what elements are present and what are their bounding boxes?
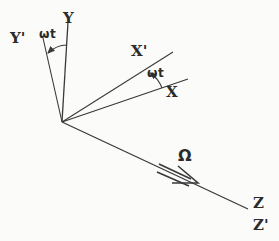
axis-label-y: Y <box>63 11 74 26</box>
omega-vector-arrow <box>157 164 198 186</box>
axis-line-y <box>62 22 68 122</box>
axis-label-x: X <box>166 85 178 100</box>
axis-line-x-prime <box>62 52 173 122</box>
axis-line-y-prime <box>43 38 62 122</box>
axis-label-z: Z <box>253 196 264 211</box>
vector-label-omega: Ω <box>178 148 192 164</box>
axis-label-x-prime: X' <box>131 44 147 59</box>
axis-label-y-prime: Y' <box>10 31 25 46</box>
angle-label-omega-t-y: ωt <box>39 28 56 40</box>
angle-arc-y <box>48 45 67 53</box>
rotating-frame-diagram: Y Y' X' X Z Z' ωt ωt Ω <box>0 0 279 241</box>
axis-line-z <box>62 122 248 209</box>
axis-label-z-prime: Z' <box>253 218 269 233</box>
angle-label-omega-t-x: ωt <box>147 67 164 79</box>
